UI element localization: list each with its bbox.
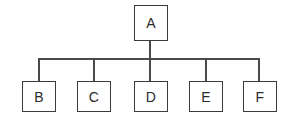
node-box-f[interactable]: F (243, 81, 277, 112)
node-label-e: E (201, 90, 211, 104)
node-box-c[interactable]: C (77, 81, 111, 112)
connector-root-stem (149, 41, 151, 59)
node-box-e[interactable]: E (189, 81, 223, 112)
connector-drop-d (149, 59, 151, 81)
node-box-a[interactable]: A (134, 5, 168, 41)
connector-drop-c (93, 59, 95, 81)
node-label-c: C (89, 90, 99, 104)
node-box-d[interactable]: D (134, 81, 168, 112)
node-label-b: B (34, 90, 44, 104)
connector-drop-b (38, 59, 40, 81)
tree-diagram: A B C D E F (0, 0, 293, 121)
node-box-b[interactable]: B (22, 81, 56, 112)
connector-drop-f (258, 59, 260, 81)
node-label-f: F (256, 90, 265, 104)
node-label-d: D (146, 90, 156, 104)
connector-drop-e (205, 59, 207, 81)
node-label-a: A (146, 16, 156, 30)
